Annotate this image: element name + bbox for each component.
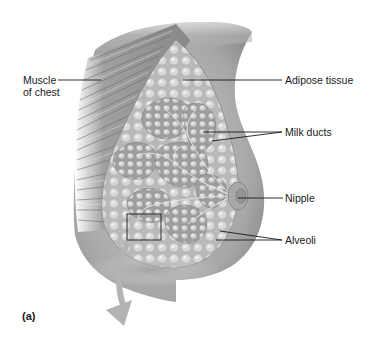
label-alveoli: Alveoli: [285, 234, 316, 246]
label-adipose-tissue: Adipose tissue: [285, 74, 353, 86]
anatomy-illustration: [0, 0, 374, 341]
label-nipple: Nipple: [285, 192, 315, 204]
breast-anatomy-figure: Muscle of chest Adipose tissue Milk duct…: [0, 0, 374, 341]
label-muscle-of-chest: Muscle of chest: [23, 74, 60, 98]
label-muscle-line2: of chest: [23, 86, 60, 98]
nipple-area: [228, 182, 248, 210]
label-milk-ducts: Milk ducts: [285, 126, 332, 138]
panel-label-a: (a): [22, 310, 35, 322]
label-muscle-line1: Muscle: [23, 74, 60, 86]
